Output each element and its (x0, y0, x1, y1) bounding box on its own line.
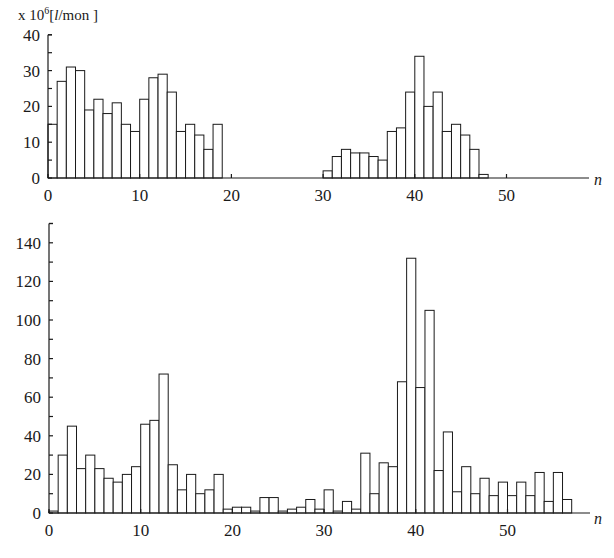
y-tick-label: 20 (23, 97, 40, 116)
histogram-bar (195, 135, 204, 178)
histogram-bar (77, 469, 86, 513)
y-tick-label: 10 (23, 133, 40, 152)
histogram-bar (104, 478, 113, 513)
y-tick-label: 120 (16, 272, 42, 291)
histogram-bar (443, 432, 452, 513)
histogram-bar (553, 472, 562, 513)
x-tick-label: 30 (316, 521, 333, 540)
histogram-bar (406, 92, 415, 178)
y-tick-label: 30 (23, 62, 40, 81)
histogram-bar (526, 496, 535, 513)
histogram-bar (67, 426, 76, 513)
histogram-bar (269, 498, 278, 513)
histogram-bar (205, 490, 214, 513)
histogram-bar (140, 99, 149, 178)
histogram-bar (397, 382, 406, 513)
y-tick-label: 100 (16, 311, 42, 330)
histogram-bar (351, 153, 360, 178)
histogram-bar (396, 128, 405, 178)
histogram-bar (242, 507, 251, 513)
histogram-bar (360, 153, 369, 178)
top-histogram: x 106[l/mon ] 01020304001020304050 n (18, 5, 602, 205)
histogram-bar (150, 420, 159, 513)
histogram-bar (196, 494, 205, 513)
histogram-bar (94, 99, 103, 178)
histogram-bar (433, 92, 442, 178)
y-tick-label: 0 (32, 169, 41, 188)
bottom-axes (49, 224, 590, 514)
histogram-bar (434, 471, 443, 513)
histogram-bar (86, 455, 95, 513)
histogram-bar (535, 472, 544, 513)
histogram-bar (121, 124, 130, 178)
histogram-bar (186, 124, 195, 178)
histogram-bar (58, 455, 67, 513)
histogram-bar (517, 482, 526, 513)
histogram-bar (131, 131, 140, 178)
histogram-bar (489, 496, 498, 513)
y-tick-label: 140 (16, 234, 42, 253)
histogram-bar (361, 453, 370, 513)
histogram-bar (141, 424, 150, 513)
histogram-bar (204, 149, 213, 178)
histogram-bar (424, 106, 433, 178)
histogram-bar (451, 124, 460, 178)
y-tick-label: 40 (23, 26, 40, 45)
x-tick-label: 50 (498, 186, 515, 205)
histogram-bar (158, 74, 167, 178)
y-tick-label: 40 (24, 427, 41, 446)
histogram-figure: x 106[l/mon ] 01020304001020304050 n 020… (0, 0, 614, 558)
histogram-bar (260, 498, 269, 513)
histogram-bar (149, 78, 158, 178)
y-tick-label: 0 (33, 504, 42, 523)
x-tick-label: 20 (223, 186, 240, 205)
histogram-bar (168, 465, 177, 513)
histogram-bar (416, 388, 425, 513)
histogram-bar (379, 463, 388, 513)
histogram-bar (480, 478, 489, 513)
x-tick-label: 40 (406, 186, 423, 205)
histogram-bar (122, 474, 131, 513)
bottom-x-axis-name: n (594, 510, 602, 527)
histogram-bar (369, 157, 378, 178)
histogram-bar (342, 501, 351, 513)
x-tick-label: 30 (315, 186, 332, 205)
y-unit-label: x 106[l/mon ] (18, 5, 98, 23)
y-tick-label: 80 (24, 350, 41, 369)
histogram-bar (232, 507, 241, 513)
histogram-bar (132, 467, 141, 513)
histogram-bar (167, 92, 176, 178)
histogram-bar (213, 124, 222, 178)
histogram-bar (113, 482, 122, 513)
histogram-bar (378, 160, 387, 178)
histogram-bar (297, 507, 306, 513)
histogram-bar (214, 474, 223, 513)
bottom-histogram: 02040608010012014001020304050 n (16, 224, 603, 541)
x-tick-label: 10 (131, 186, 148, 205)
histogram-bar (471, 494, 480, 513)
x-tick-label: 0 (45, 521, 54, 540)
histogram-bar (112, 103, 121, 178)
top-x-axis-name: n (594, 171, 602, 188)
histogram-bar (407, 258, 416, 513)
histogram-bar (48, 124, 57, 178)
histogram-bar (388, 467, 397, 513)
x-tick-label: 50 (499, 521, 516, 540)
histogram-bar (323, 171, 332, 178)
histogram-bar (370, 494, 379, 513)
histogram-bar (498, 482, 507, 513)
bottom-bars (49, 258, 572, 513)
histogram-bar (387, 131, 396, 178)
histogram-bar (103, 114, 112, 178)
histogram-bar (324, 490, 333, 513)
histogram-bar (563, 499, 572, 513)
x-tick-label: 20 (224, 521, 241, 540)
histogram-bar (332, 157, 341, 178)
histogram-bar (306, 499, 315, 513)
x-tick-label: 40 (407, 521, 424, 540)
histogram-bar (76, 71, 85, 178)
histogram-bar (415, 56, 424, 178)
histogram-bar (176, 131, 185, 178)
histogram-bar (85, 110, 94, 178)
histogram-bar (425, 310, 434, 513)
